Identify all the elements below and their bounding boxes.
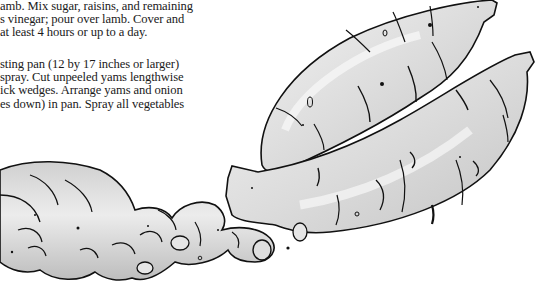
yam-ginger-illustration [0, 0, 538, 287]
